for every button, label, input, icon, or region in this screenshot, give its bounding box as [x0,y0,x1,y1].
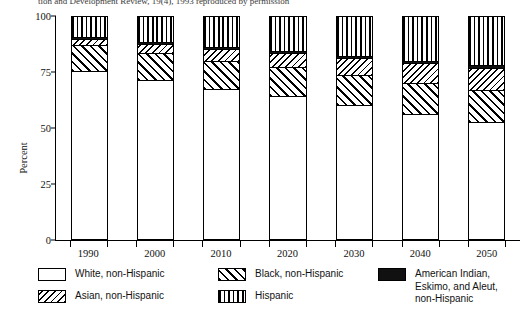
bar-segment [403,17,438,61]
x-tick-label-1990: 1990 [55,241,121,263]
bar-segment [138,17,173,42]
bar-segment [138,80,173,239]
bar-segment [469,90,504,122]
asian-swatch [38,290,66,303]
y-axis-label: Percent [18,142,29,174]
bar-segment [138,44,173,53]
bar-segment [337,75,372,105]
bar-slot [189,16,255,240]
legend-column-2: Black, non-HispanicHispanic [218,268,373,312]
stacked-bar[interactable] [137,16,174,240]
x-tick-label-2000: 2000 [121,241,187,263]
bar-slot [454,16,520,240]
y-tick-label: 100 [35,11,51,22]
x-axis-labels: 1990200020102020203020402050 [55,241,520,263]
plot-area: 0255075100 [55,16,520,241]
source-caption: tion and Development Review, 19(4), 1993… [38,0,508,6]
legend-label: Hispanic [255,290,293,303]
bars-container [56,16,520,240]
bar-segment [270,53,305,68]
bar-segment [337,105,372,239]
bar-segment [72,71,107,239]
white-swatch [38,268,66,281]
bar-segment [403,83,438,114]
bar-segment [138,53,173,80]
bar-segment [204,89,239,239]
bar-segment [204,49,239,61]
bar-slot [387,16,453,240]
x-tick-label-2010: 2010 [188,241,254,263]
bar-segment [469,68,504,91]
legend-item[interactable]: American Indian, Eskimo, and Aleut, non-… [378,268,513,306]
bar-segment [72,17,107,37]
y-tick-mark [51,128,56,129]
y-tick-mark [51,72,56,73]
stacked-bar[interactable] [269,16,306,240]
hispanic-swatch [218,290,246,303]
legend-item[interactable]: Hispanic [218,290,373,303]
bar-slot [122,16,188,240]
y-tick-mark [51,16,56,17]
x-tick-label-2020: 2020 [254,241,320,263]
stacked-bar[interactable] [402,16,439,240]
x-tick-label-2040: 2040 [387,241,453,263]
y-tick-label: 25 [41,179,52,190]
legend-item[interactable]: Black, non-Hispanic [218,268,373,281]
black-nh-swatch [218,268,246,281]
chart-legend: White, non-HispanicAsian, non-Hispanic B… [38,268,508,315]
bar-segment [270,67,305,96]
bar-segment [204,17,239,47]
bar-segment [337,58,372,75]
legend-label: White, non-Hispanic [75,268,164,281]
bar-segment [337,17,372,56]
bar-segment [469,122,504,239]
y-tick-label: 75 [41,67,52,78]
bar-slot [255,16,321,240]
bar-segment [403,114,438,239]
y-tick-label: 50 [41,123,52,134]
legend-item[interactable]: Asian, non-Hispanic [38,290,213,303]
chart-root: tion and Development Review, 19(4), 1993… [0,0,525,315]
legend-column-1: White, non-HispanicAsian, non-Hispanic [38,268,213,312]
bar-segment [270,17,305,51]
bar-segment [469,17,504,65]
legend-item[interactable]: White, non-Hispanic [38,268,213,281]
legend-column-3: American Indian, Eskimo, and Aleut, non-… [378,268,513,315]
legend-label: Asian, non-Hispanic [75,290,164,303]
stacked-bar[interactable] [468,16,505,240]
x-tick-label-2030: 2030 [321,241,387,263]
y-tick-mark [51,184,56,185]
stacked-bar[interactable] [336,16,373,240]
bar-slot [56,16,122,240]
bar-slot [321,16,387,240]
x-tick-label-2050: 2050 [454,241,520,263]
bar-segment [204,61,239,89]
legend-label: Black, non-Hispanic [255,268,343,281]
amerindian-swatch [378,268,406,281]
legend-label: American Indian, Eskimo, and Aleut, non-… [415,268,498,306]
bar-segment [270,96,305,239]
stacked-bar[interactable] [71,16,108,240]
bar-segment [72,45,107,71]
bar-segment [403,63,438,83]
stacked-bar[interactable] [203,16,240,240]
